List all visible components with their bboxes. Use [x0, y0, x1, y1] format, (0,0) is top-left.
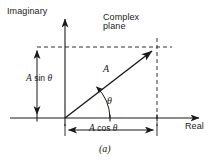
- figure-caption: (a): [99, 144, 111, 155]
- asin-function: sin: [34, 73, 45, 83]
- acos-angle: θ: [113, 123, 118, 133]
- complex-plane-figure: Imaginary Complex plane Real A sin θ A c…: [0, 0, 217, 168]
- real-component-label: A cos θ: [89, 124, 117, 134]
- acos-function: cos: [97, 123, 110, 133]
- asin-angle: θ: [47, 73, 52, 83]
- complex-plane-line-2: plane: [103, 21, 126, 31]
- real-axis-label: Real: [185, 122, 204, 131]
- vector-magnitude-label: A: [103, 64, 109, 75]
- angle-theta-label: θ: [107, 96, 112, 107]
- complex-plane-annotation: Complex plane: [103, 13, 139, 32]
- imaginary-component-label: A sin θ: [26, 74, 52, 84]
- imaginary-axis-label: Imaginary: [7, 7, 47, 16]
